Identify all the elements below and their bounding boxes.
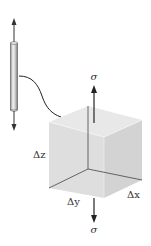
axial-bar [11, 18, 18, 131]
arrow-up-icon [12, 18, 17, 25]
label-delta-z: Δz [33, 149, 46, 160]
label-delta-y: Δy [67, 196, 80, 207]
stress-arrow-bottom [91, 198, 97, 223]
stress-element-diagram: σ σ Δz Δy Δx [0, 0, 151, 246]
bar-body [11, 43, 18, 110]
volume-element-cube [49, 106, 142, 198]
arrow-down-icon [12, 124, 17, 131]
arrow-up-icon [91, 85, 97, 93]
bar-top-end [11, 42, 18, 45]
arrow-down-icon [91, 215, 97, 223]
label-sigma-top: σ [91, 71, 99, 82]
label-delta-x: Δx [127, 189, 140, 200]
label-sigma-bottom: σ [91, 224, 99, 235]
leader-curve [19, 76, 61, 117]
